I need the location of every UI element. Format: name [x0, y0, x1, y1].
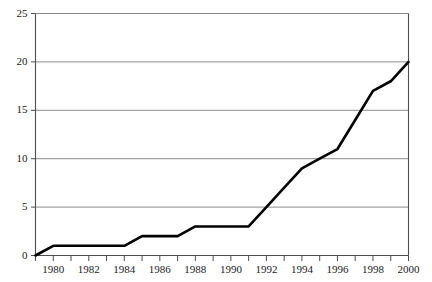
y-axis-tick-label: 10	[17, 153, 28, 164]
y-axis-tick-label: 5	[22, 201, 28, 212]
y-axis-tick-label: 20	[17, 56, 28, 67]
y-axis-tick-label: 25	[17, 8, 28, 19]
chart-plot-area	[0, 0, 432, 282]
y-axis-tick-label: 15	[17, 104, 28, 115]
x-axis-ticks	[36, 256, 409, 262]
y-axis-ticks	[31, 14, 36, 256]
x-axis-tick-label: 2000	[385, 264, 432, 275]
y-axis-tick-label: 0	[22, 250, 28, 261]
plot-border	[36, 14, 409, 256]
chart-container: 0510152025 19801982198419861988199019921…	[0, 0, 432, 282]
grid-lines	[36, 14, 409, 208]
